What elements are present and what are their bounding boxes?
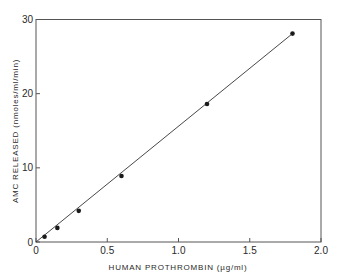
data-point [76,209,81,214]
y-tick-label: 20 [22,88,34,99]
x-tick-label: 0.5 [100,245,114,256]
data-point [290,31,295,36]
data-point [205,102,210,107]
x-axis-label: HUMAN PROTHROMBIN (µg/ml) [109,263,248,272]
y-tick-label: 0 [27,237,33,248]
x-axis-ticks: 00.51.01.52.0 [33,238,328,256]
y-axis-ticks: 0102030 [22,14,40,248]
x-tick-label: 1.5 [243,245,257,256]
data-point [55,226,60,231]
y-tick-label: 10 [22,162,34,173]
x-tick-label: 2.0 [314,245,328,256]
x-tick-label: 0 [33,245,39,256]
y-tick-label: 30 [22,14,34,25]
x-tick-label: 1.0 [172,245,186,256]
fit-line [36,34,293,242]
data-point [119,174,124,179]
chart: 00.51.01.52.0 0102030 HUMAN PROTHROMBIN … [0,0,340,278]
data-point [42,235,47,240]
y-axis-label: AMC RELEASED (nmoles/ml/min) [11,59,20,203]
